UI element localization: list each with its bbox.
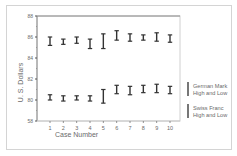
swiss-franc-bar <box>154 84 158 92</box>
german-mark-bar <box>141 35 145 40</box>
legend-label: German Mark <box>193 83 227 89</box>
legend-label: Swiss Franc <box>193 105 224 111</box>
swiss-franc-bar <box>48 95 52 100</box>
y-tick-label: 84 <box>27 55 33 61</box>
swiss-franc-bar <box>168 86 172 93</box>
swiss-franc-bar <box>101 90 105 104</box>
german-mark-bar <box>88 39 92 48</box>
german-mark-bar <box>128 34 132 41</box>
y-axis-title: U. S. Dollars <box>17 62 24 102</box>
german-mark-bar <box>168 35 172 42</box>
y-tick-label: 88 <box>27 13 33 19</box>
hi-lo-chart: 88868482805812345678910Case NumberU. S. … <box>0 0 237 156</box>
german-mark-bar <box>74 37 78 43</box>
x-tick-label: 6 <box>115 125 118 131</box>
x-tick-label: 5 <box>102 125 105 131</box>
legend-label: High and Low <box>193 90 228 96</box>
x-tick-label: 7 <box>128 125 131 131</box>
swiss-franc-bar <box>128 86 132 94</box>
swiss-franc-bar <box>114 85 118 93</box>
swiss-franc-bar <box>141 85 145 92</box>
y-tick-label: 58 <box>27 118 33 124</box>
y-tick-label: 80 <box>27 97 33 103</box>
y-tick-label: 86 <box>27 34 33 40</box>
german-mark-bar <box>101 34 105 49</box>
x-tick-label: 8 <box>142 125 145 131</box>
x-tick-label: 1 <box>48 125 51 131</box>
legend-label: High and Low <box>193 112 228 118</box>
swiss-franc-bar <box>74 96 78 100</box>
german-mark-bar <box>114 31 118 40</box>
german-mark-bar <box>154 33 158 41</box>
german-mark-bar <box>48 37 52 45</box>
x-tick-label: 9 <box>155 125 158 131</box>
y-tick-label: 82 <box>27 76 33 82</box>
swiss-franc-bar <box>61 96 65 101</box>
german-mark-bar <box>61 39 65 44</box>
x-tick-label: 10 <box>167 125 173 131</box>
x-axis-title: Case Number <box>55 131 99 138</box>
swiss-franc-bar <box>88 96 92 101</box>
plot-area <box>37 16 180 121</box>
